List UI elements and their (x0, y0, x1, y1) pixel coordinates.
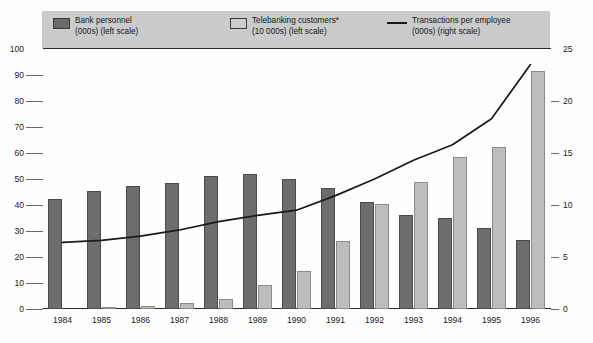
light-swatch-icon (230, 18, 247, 29)
x-axis-label: 1991 (326, 315, 345, 325)
legend-line1: Bank personnel (75, 16, 132, 25)
y-label-left: 100 (0, 44, 24, 54)
bar-telebanking-customers (453, 157, 468, 309)
bar-telebanking-customers (141, 306, 156, 309)
bar-bank-personnel (282, 179, 297, 309)
legend-label-telebanking-customers: Telebanking customers* (10 000s) (left s… (252, 16, 339, 37)
x-axis-label: 1990 (287, 315, 306, 325)
y-label-right: 15 (563, 148, 573, 158)
x-axis-label: 1988 (209, 315, 228, 325)
y-tick-right (551, 153, 559, 154)
y-label-right: 25 (563, 44, 573, 54)
y-tick-left (26, 75, 43, 76)
bar-bank-personnel (438, 218, 453, 309)
legend-line2: (000s) (right scale) (412, 27, 510, 38)
bar-telebanking-customers (102, 307, 117, 309)
bar-telebanking-customers (414, 182, 429, 309)
legend-label-bank-personnel: Bank personnel (000s) (left scale) (75, 16, 138, 37)
bar-bank-personnel (243, 174, 258, 309)
bar-bank-personnel (321, 188, 336, 309)
bar-bank-personnel (126, 186, 141, 310)
bar-telebanking-customers (492, 147, 507, 310)
chart-legend: Bank personnel (000s) (left scale) Teleb… (42, 11, 550, 48)
bar-bank-personnel (204, 176, 219, 309)
x-axis-label: 1995 (482, 315, 501, 325)
y-label-left: 20 (0, 252, 24, 262)
legend-line2: (000s) (left scale) (75, 27, 138, 38)
legend-line1: Transactions per employee (412, 16, 510, 25)
x-axis-label: 1989 (248, 315, 267, 325)
y-tick-left (26, 257, 43, 258)
y-label-left: 70 (0, 122, 24, 132)
y-label-left: 60 (0, 148, 24, 158)
legend-line1: Telebanking customers* (252, 16, 339, 25)
y-tick-left (26, 153, 43, 154)
x-axis-label: 1992 (365, 315, 384, 325)
x-axis-label: 1984 (53, 315, 72, 325)
legend-item-bank-personnel: Bank personnel (000s) (left scale) (53, 16, 138, 37)
x-axis-label: 1994 (443, 315, 462, 325)
bar-telebanking-customers (180, 303, 195, 309)
x-axis-label: 1987 (170, 315, 189, 325)
line-series-transactions-per-employee (43, 49, 550, 309)
y-tick-right (551, 101, 559, 102)
bar-bank-personnel (477, 228, 492, 309)
bar-bank-personnel (87, 191, 102, 309)
legend-item-telebanking-customers: Telebanking customers* (10 000s) (left s… (230, 16, 339, 37)
y-tick-left (26, 231, 43, 232)
y-label-right: 20 (563, 96, 573, 106)
dark-swatch-icon (53, 18, 70, 29)
y-tick-left (26, 283, 43, 284)
legend-label-transactions-per-employee: Transactions per employee (000s) (right … (412, 16, 510, 37)
y-label-left: 30 (0, 226, 24, 236)
y-tick-right (551, 205, 559, 206)
y-tick-right (551, 309, 559, 310)
y-tick-left (26, 205, 43, 206)
y-label-left: 90 (0, 70, 24, 80)
y-tick-left (26, 101, 43, 102)
bar-bank-personnel (360, 202, 375, 309)
y-label-right: 5 (563, 252, 568, 262)
y-label-left: 10 (0, 278, 24, 288)
bar-telebanking-customers (531, 71, 546, 309)
plot-area (43, 49, 550, 309)
y-tick-right (551, 257, 559, 258)
x-axis-label: 1985 (92, 315, 111, 325)
bar-telebanking-customers (258, 285, 273, 309)
legend-line2: (10 000s) (left scale) (252, 27, 339, 38)
bar-bank-personnel (516, 240, 531, 309)
bar-telebanking-customers (297, 271, 312, 309)
y-label-left: 0 (0, 304, 24, 314)
y-tick-left (26, 179, 43, 180)
bar-bank-personnel (399, 215, 414, 309)
y-label-right: 0 (563, 304, 568, 314)
y-label-left: 80 (0, 96, 24, 106)
bar-telebanking-customers (219, 299, 234, 309)
y-tick-left (26, 309, 43, 310)
y-label-left: 40 (0, 200, 24, 210)
x-axis-label: 1986 (131, 315, 150, 325)
y-label-right: 10 (563, 200, 573, 210)
bar-bank-personnel (48, 199, 63, 310)
line-swatch-icon (387, 22, 407, 24)
chart-container: Bank personnel (000s) (left scale) Teleb… (0, 0, 593, 343)
x-axis-label: 1993 (404, 315, 423, 325)
x-axis-label: 1996 (521, 315, 540, 325)
bar-telebanking-customers (336, 241, 351, 309)
bar-telebanking-customers (375, 204, 390, 309)
y-label-left: 50 (0, 174, 24, 184)
legend-item-transactions-per-employee: Transactions per employee (000s) (right … (387, 16, 510, 37)
bar-bank-personnel (165, 183, 180, 309)
y-tick-left (26, 127, 43, 128)
